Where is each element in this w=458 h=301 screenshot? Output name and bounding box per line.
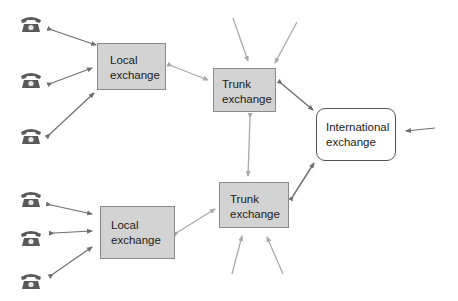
link-incoming-trunk-bottom-1 [232, 236, 242, 274]
telephone-icon [20, 272, 42, 290]
telephone-icon [20, 15, 42, 33]
link-trunk-bottom-international [293, 163, 314, 196]
link-phone6-local-bottom [53, 247, 92, 274]
node-label: Local [110, 53, 165, 68]
link-phone1-local-top [52, 30, 96, 45]
telephone-icon [20, 229, 42, 247]
node-label: Trunk [230, 192, 288, 207]
node-label: exchange [230, 207, 288, 222]
link-trunk-top-international [282, 84, 313, 110]
link-trunk-top-trunk-bottom [248, 118, 250, 176]
local-exchange-bottom: Local exchange [100, 206, 175, 259]
telephone-icon [20, 71, 42, 89]
node-label: exchange [111, 233, 174, 248]
local-exchange-top: Local exchange [97, 43, 166, 90]
link-incoming-trunk-top-2 [275, 22, 297, 63]
link-phone5-local-bottom [54, 231, 92, 233]
link-incoming-trunk-bottom-2 [267, 237, 283, 274]
node-label: International [326, 120, 395, 135]
node-label: exchange [326, 135, 395, 150]
link-phone4-local-bottom [51, 205, 92, 214]
trunk-exchange-top: Trunk exchange [213, 68, 276, 112]
node-label: exchange [222, 92, 275, 107]
node-label: Trunk [222, 77, 275, 92]
telephone-icon [20, 190, 42, 208]
node-label: Local [111, 218, 174, 233]
link-phone2-local-top [52, 68, 92, 83]
link-local-top-trunk-top [172, 66, 208, 80]
link-incoming-international [406, 128, 435, 131]
international-exchange: International exchange [316, 108, 396, 161]
link-incoming-trunk-top-1 [233, 18, 248, 61]
telephone-network-diagram: Local exchange Trunk exchange Internatio… [0, 0, 458, 301]
trunk-exchange-bottom: Trunk exchange [219, 182, 289, 228]
telephone-icon [20, 127, 42, 145]
link-phone3-local-top [50, 93, 94, 134]
link-local-bottom-trunk-bottom [178, 209, 215, 232]
node-label: exchange [110, 68, 165, 83]
